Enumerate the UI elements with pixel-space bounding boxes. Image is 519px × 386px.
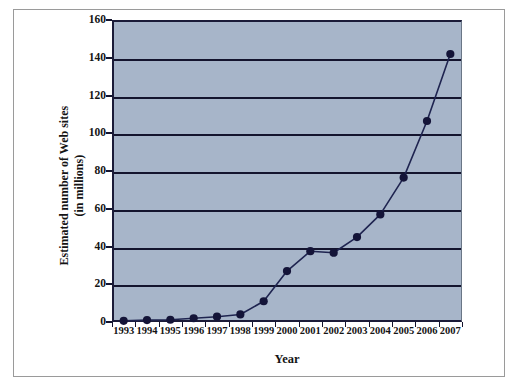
y-axis-tick-mark <box>106 132 112 134</box>
x-axis-tick-mark <box>112 322 113 327</box>
gridline <box>114 210 461 212</box>
x-axis-tick-mark <box>182 322 183 327</box>
plot-area <box>112 20 462 322</box>
y-axis-tick-mark <box>106 95 112 97</box>
y-axis-tick-labels: 020406080100120140160 <box>0 20 106 322</box>
gridline <box>114 59 461 61</box>
x-axis-tick-mark <box>439 322 440 327</box>
x-axis-tick-mark <box>345 322 346 327</box>
y-axis-tick-mark <box>106 19 112 21</box>
gridline <box>114 97 461 99</box>
x-axis-tick-mark <box>299 322 300 327</box>
x-axis-tick-mark <box>159 322 160 327</box>
x-axis-tick-mark <box>205 322 206 327</box>
y-axis-tick-mark <box>106 170 112 172</box>
x-axis-tick-mark <box>415 322 416 327</box>
x-axis-tick-label: 2007 <box>428 326 472 337</box>
x-axis-title: Year <box>112 352 462 367</box>
x-axis-tick-mark <box>369 322 370 327</box>
x-axis-tick-mark <box>229 322 230 327</box>
y-axis-tick-label: 0 <box>0 316 116 328</box>
gridline <box>114 285 461 287</box>
x-axis-tick-mark <box>322 322 323 327</box>
figure: 020406080100120140160 199319941995199619… <box>0 0 519 386</box>
x-axis-tick-mark <box>392 322 393 327</box>
y-axis-title-line-2: (in millions) <box>72 56 87 316</box>
line-chart: 020406080100120140160 199319941995199619… <box>0 0 519 386</box>
gridline <box>114 248 461 250</box>
y-axis-title-line-1: Estimated number of Web sites <box>57 106 71 266</box>
y-axis-tick-label: 160 <box>0 14 116 26</box>
x-axis-tick-mark <box>462 322 463 327</box>
x-axis-tick-labels: 1993199419951996199719981999200020012002… <box>112 326 462 342</box>
y-axis-title: Estimated number of Web sites (in millio… <box>57 56 86 316</box>
gridline <box>114 172 461 174</box>
y-axis-tick-mark <box>106 246 112 248</box>
x-axis-tick-mark <box>252 322 253 327</box>
gridline <box>114 134 461 136</box>
y-axis-tick-mark <box>106 57 112 59</box>
y-axis-tick-mark <box>106 283 112 285</box>
y-axis-tick-mark <box>106 208 112 210</box>
x-axis-tick-mark <box>275 322 276 327</box>
x-axis-tick-mark <box>135 322 136 327</box>
